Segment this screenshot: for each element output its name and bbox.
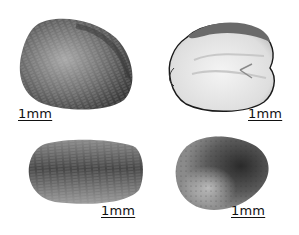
seed-bottom-right-image — [174, 134, 272, 212]
seed-bottom-right — [174, 134, 272, 212]
seed-top-left-image — [16, 16, 138, 112]
seed-bottom-left-image — [27, 138, 147, 206]
seed-bottom-left — [27, 138, 147, 206]
scale-label-top-left: 1mm — [18, 107, 52, 121]
seed-top-left — [16, 16, 138, 112]
scale-label-bottom-left: 1mm — [101, 204, 135, 218]
seed-figure: 1mm 1mm — [0, 0, 299, 235]
seed-top-right — [166, 16, 278, 114]
scale-label-bottom-right: 1mm — [231, 204, 265, 218]
scale-label-top-right: 1mm — [248, 107, 282, 121]
seed-top-right-image — [166, 16, 278, 114]
